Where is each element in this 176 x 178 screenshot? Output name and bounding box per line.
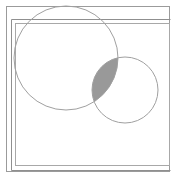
page-background (0, 0, 176, 178)
figure-root: Two overlapping circles with shaded inte… (0, 0, 176, 178)
venn-diagram-canvas: Two overlapping circles with shaded inte… (0, 0, 176, 178)
